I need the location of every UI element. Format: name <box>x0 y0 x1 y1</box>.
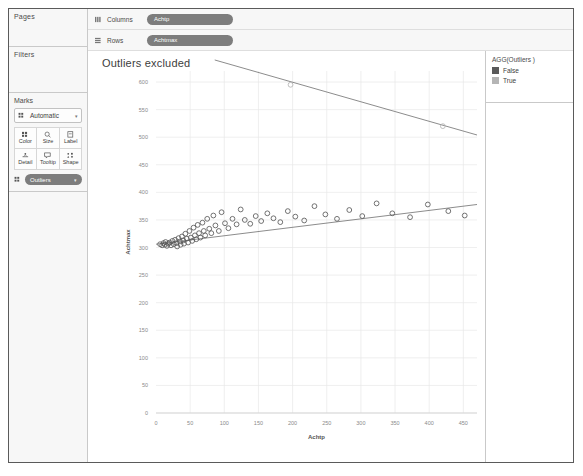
y-tick-label: 550 <box>139 107 148 113</box>
size-icon <box>43 131 52 138</box>
marks-color-button[interactable]: Color <box>14 127 38 149</box>
pill-menu-icon: ▾ <box>74 177 77 183</box>
data-point-false <box>347 208 352 213</box>
pages-title: Pages <box>14 13 82 20</box>
automatic-icon <box>18 112 27 119</box>
y-tick-label: 500 <box>139 134 148 140</box>
data-point-false <box>278 220 283 225</box>
marks-shape-label: Shape <box>63 160 79 166</box>
x-tick-label: 150 <box>254 420 263 426</box>
y-tick-label: 150 <box>139 327 148 333</box>
right-panel-filler <box>485 103 573 462</box>
data-point-false <box>216 229 221 234</box>
columns-icon <box>94 16 103 23</box>
data-point-false <box>374 201 379 206</box>
data-point-false <box>265 211 270 216</box>
columns-pill-achtp[interactable]: Achtp <box>147 14 233 25</box>
detail-icon <box>21 152 30 159</box>
shelf-area: Columns Achtp Rows Achtmax <box>88 9 573 51</box>
marks-panel: Marks Automatic ▾ <box>9 93 87 192</box>
marks-color-label: Color <box>19 139 32 145</box>
x-tick-label: 50 <box>187 420 193 426</box>
shape-icon <box>66 152 75 159</box>
data-point-false <box>195 223 200 228</box>
legend-title: AGG(Outliers ) <box>492 56 567 63</box>
mark-type-dropdown[interactable]: Automatic ▾ <box>14 108 82 123</box>
rows-icon <box>94 37 103 44</box>
data-point-false <box>203 233 208 238</box>
data-point-false <box>230 216 235 221</box>
y-tick-label: 200 <box>139 300 148 306</box>
y-tick-label: 100 <box>139 355 148 361</box>
rows-shelf[interactable]: Rows Achtmax <box>88 30 573 51</box>
mark-buttons-grid: Color Size Label <box>14 127 82 169</box>
filters-panel[interactable]: Filters <box>9 47 87 93</box>
data-point-false <box>302 218 307 223</box>
data-point-false <box>285 209 290 214</box>
tooltip-icon <box>43 152 52 159</box>
marks-size-button[interactable]: Size <box>36 127 60 149</box>
chevron-down-icon: ▾ <box>75 113 78 119</box>
marks-outliers-pill[interactable]: Outliers ▾ <box>25 174 82 185</box>
legend-label-false: False <box>503 67 519 74</box>
x-tick-label: 350 <box>390 420 399 426</box>
marks-title: Marks <box>14 97 82 104</box>
data-point-false <box>408 215 413 220</box>
legend-swatch-true <box>492 77 499 84</box>
color-icon <box>21 131 30 138</box>
y-tick-label: 250 <box>139 272 148 278</box>
x-tick-label: 400 <box>425 420 434 426</box>
marks-card-pill-row: Outliers ▾ <box>14 174 82 185</box>
y-tick-label: 0 <box>145 410 148 416</box>
data-point-false <box>335 216 340 221</box>
data-point-false <box>209 231 214 236</box>
x-tick-label: 300 <box>356 420 365 426</box>
data-point-false <box>200 220 205 225</box>
data-point-false <box>259 219 264 224</box>
rows-shelf-label: Rows <box>107 37 143 44</box>
marks-detail-button[interactable]: Detail <box>14 148 38 170</box>
rows-pill-achtmax[interactable]: Achtmax <box>147 35 233 46</box>
legend-swatch-false <box>492 67 499 74</box>
marks-shape-button[interactable]: Shape <box>59 148 83 170</box>
color-legend: AGG(Outliers ) False True <box>485 51 573 103</box>
trend-true <box>215 60 477 135</box>
data-point-false <box>293 214 298 219</box>
marks-tooltip-button[interactable]: Tooltip <box>36 148 60 170</box>
y-tick-label: 350 <box>139 217 148 223</box>
legend-item-false[interactable]: False <box>492 67 567 74</box>
mark-type-label: Automatic <box>30 112 72 119</box>
x-tick-label: 200 <box>288 420 297 426</box>
data-point-false <box>211 213 216 218</box>
data-point-false <box>219 210 224 215</box>
data-point-false <box>446 209 451 214</box>
legend-item-true[interactable]: True <box>492 77 567 84</box>
data-point-false <box>187 229 192 234</box>
data-point-false <box>238 207 243 212</box>
left-sidebar: Pages Filters Marks Automatic ▾ <box>9 9 88 462</box>
marks-label-button[interactable]: Label <box>59 127 83 149</box>
data-point-true <box>288 82 293 87</box>
x-tick-label: 450 <box>459 420 468 426</box>
x-tick-label: 250 <box>322 420 331 426</box>
data-point-false <box>223 221 228 226</box>
y-tick-label: 300 <box>139 245 148 251</box>
data-point-false <box>205 216 210 221</box>
data-point-false <box>253 214 258 219</box>
columns-shelf[interactable]: Columns Achtp <box>88 9 573 30</box>
y-tick-label: 50 <box>142 382 148 388</box>
data-point-false <box>226 226 231 231</box>
data-point-false <box>198 235 203 240</box>
color-encoding-icon <box>14 176 23 183</box>
pages-panel[interactable]: Pages <box>9 9 87 47</box>
filters-title: Filters <box>14 51 82 58</box>
chart-canvas: 0501001502002503003504004500501001502002… <box>88 51 487 464</box>
legend-label-true: True <box>503 77 516 84</box>
data-point-false <box>213 223 218 228</box>
y-tick-label: 600 <box>139 79 148 85</box>
marks-label-label: Label <box>64 139 77 145</box>
data-point-false <box>234 222 239 227</box>
data-point-true <box>440 124 445 129</box>
columns-shelf-label: Columns <box>107 16 143 23</box>
tableau-worksheet: Pages Filters Marks Automatic ▾ <box>8 8 574 463</box>
